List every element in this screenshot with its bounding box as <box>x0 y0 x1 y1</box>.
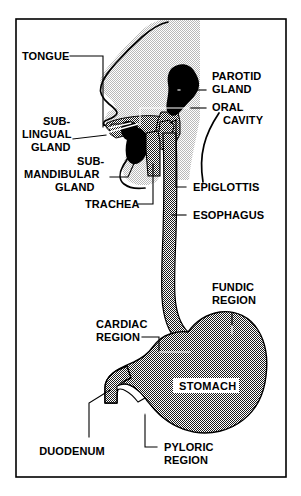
digestive-tract-diagram: TONGUE SUB- LINGUAL GLAND SUB- MANDIBULA… <box>0 0 301 496</box>
label-submandibular-line2: MANDIBULAR <box>24 168 100 180</box>
label-fundic-line1: FUNDIC <box>212 281 254 293</box>
label-stomach: STOMACH <box>179 380 237 392</box>
anatomy-figure: TONGUE SUB- LINGUAL GLAND SUB- MANDIBULA… <box>0 0 301 496</box>
label-tongue: TONGUE <box>22 50 69 62</box>
label-parotid-line2: GLAND <box>212 83 252 95</box>
label-fundic-line2: REGION <box>212 294 256 306</box>
label-duodenum: DUODENUM <box>39 445 105 457</box>
label-esophagus: ESOPHAGUS <box>193 209 264 221</box>
label-trachea: TRACHEA <box>85 198 139 210</box>
label-sublingual-line3: GLAND <box>31 141 71 153</box>
label-cardiac-line2: REGION <box>96 331 140 343</box>
label-sublingual-line2: LINGUAL <box>22 128 72 140</box>
label-oral-cavity-line2: CAVITY <box>223 114 264 126</box>
label-epiglottis: EPIGLOTTIS <box>193 181 259 193</box>
label-pyloric-line2: REGION <box>164 454 208 466</box>
label-cardiac-line1: CARDIAC <box>96 318 147 330</box>
label-submandibular-line3: GLAND <box>55 181 95 193</box>
label-parotid-line1: PAROTID <box>212 70 261 82</box>
label-submandibular-line1: SUB- <box>77 155 105 167</box>
label-pyloric-line1: PYLORIC <box>164 441 214 453</box>
label-oral-cavity-line1: ORAL <box>212 101 244 113</box>
label-sublingual-line1: SUB- <box>43 115 71 127</box>
